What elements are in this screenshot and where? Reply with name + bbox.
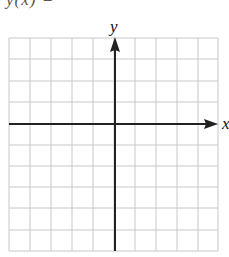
grid-lines bbox=[9, 38, 218, 251]
x-axis-label: x bbox=[221, 114, 229, 133]
y-axis-label: y bbox=[108, 17, 118, 36]
y-axis bbox=[110, 37, 120, 251]
x-axis-arrow-icon bbox=[204, 119, 218, 129]
y-axis-arrow-icon bbox=[110, 37, 120, 52]
coordinate-grid: y x bbox=[0, 0, 229, 257]
